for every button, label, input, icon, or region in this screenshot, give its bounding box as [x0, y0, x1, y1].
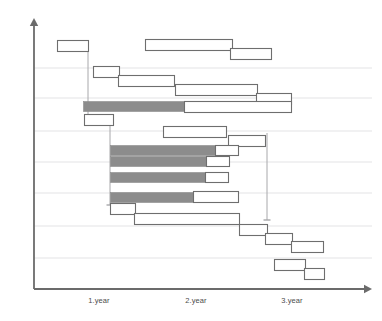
task-bar-t20[interactable] — [194, 192, 239, 203]
task-bar-t26[interactable] — [275, 260, 306, 271]
task-bar-t03[interactable] — [231, 49, 272, 60]
task-bars — [58, 40, 325, 280]
task-bar-t17[interactable] — [111, 173, 206, 183]
task-bar-t04[interactable] — [94, 67, 120, 78]
task-bar-t21[interactable] — [111, 204, 136, 215]
task-bar-t10[interactable] — [85, 115, 114, 126]
x-tick-label-2: 3.year — [281, 296, 302, 305]
x-tick-label-0: 1.year — [88, 296, 109, 305]
gantt-chart: 1.year2.year3.year — [0, 0, 382, 321]
task-bar-t11[interactable] — [164, 127, 227, 138]
task-bar-t09[interactable] — [185, 102, 292, 113]
task-bar-t12[interactable] — [229, 136, 266, 147]
x-axis-arrow-icon — [364, 285, 372, 293]
task-bar-t05[interactable] — [119, 76, 175, 87]
chart-canvas — [0, 0, 382, 321]
task-bar-t13[interactable] — [111, 146, 216, 156]
task-bar-t23[interactable] — [240, 225, 268, 236]
task-bar-t22[interactable] — [135, 214, 240, 225]
task-bar-t18[interactable] — [206, 173, 229, 183]
task-bar-t24[interactable] — [266, 234, 293, 245]
task-bar-t16[interactable] — [207, 157, 230, 167]
task-bar-t01[interactable] — [58, 41, 89, 52]
task-bar-t25[interactable] — [292, 242, 324, 253]
task-bar-t14[interactable] — [216, 146, 239, 156]
task-bar-t15[interactable] — [111, 157, 207, 167]
task-bar-t27[interactable] — [305, 269, 325, 280]
task-bar-t19[interactable] — [111, 193, 194, 203]
task-bar-t02[interactable] — [146, 40, 233, 51]
task-bar-t08[interactable] — [84, 102, 185, 112]
x-tick-label-1: 2.year — [185, 296, 206, 305]
task-bar-t06[interactable] — [176, 85, 258, 96]
y-axis-arrow-icon — [30, 18, 38, 26]
